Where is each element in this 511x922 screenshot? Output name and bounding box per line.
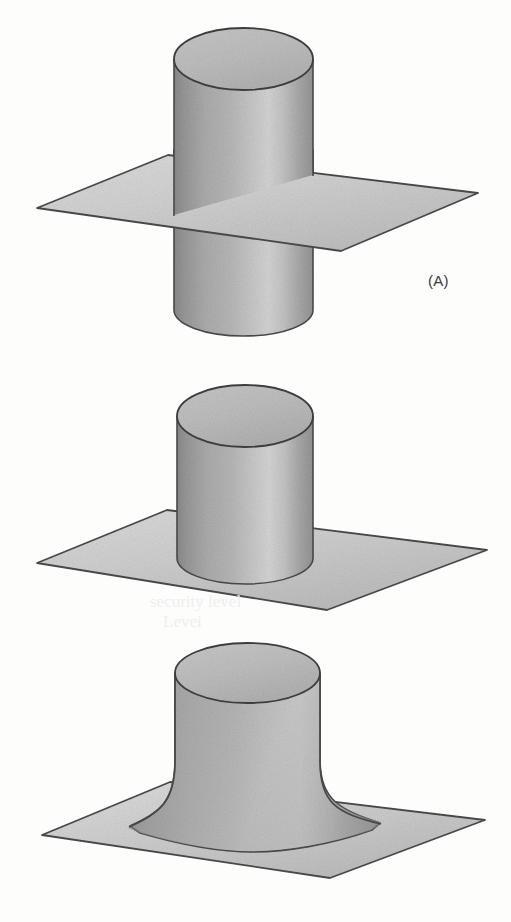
panel-label-a: (A) xyxy=(428,272,449,289)
panel-c: (C) xyxy=(0,630,511,922)
panel-a: (A) xyxy=(0,0,511,350)
figure-root: (A) xyxy=(0,0,511,922)
page-bleed-through-line-2: Levei xyxy=(163,612,202,632)
panel-a-geometry xyxy=(37,28,478,336)
cylinder-blended-c xyxy=(128,643,382,852)
panel-b: (B) xyxy=(0,350,511,640)
panel-b-illustration xyxy=(0,350,511,640)
cylinder-b xyxy=(177,385,313,584)
panel-a-illustration xyxy=(0,0,511,350)
panel-b-geometry xyxy=(37,385,487,610)
page-bleed-through-line-1: security level xyxy=(150,592,241,612)
panel-c-illustration xyxy=(0,630,511,922)
panel-c-geometry xyxy=(42,643,485,878)
